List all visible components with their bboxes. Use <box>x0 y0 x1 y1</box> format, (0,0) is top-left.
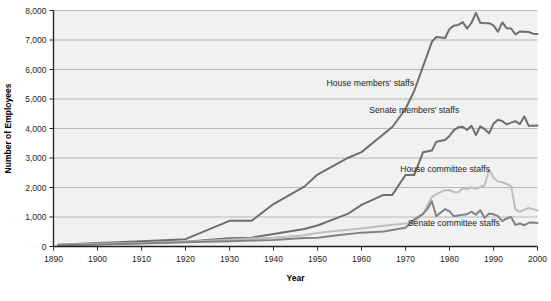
x-tick-label: 1950 <box>308 254 327 264</box>
y-tick-label: 5,000 <box>25 94 47 104</box>
x-tick-label: 1980 <box>440 254 459 264</box>
y-tick-label: 4,000 <box>25 124 47 134</box>
chart-container: 01,0002,0003,0004,0005,0006,0007,0008,00… <box>0 0 551 301</box>
y-tick-label: 0 <box>42 242 47 252</box>
x-tick-label: 1960 <box>352 254 371 264</box>
y-tick-label: 1,000 <box>25 212 47 222</box>
x-tick-label: 1990 <box>484 254 503 264</box>
x-tick-label: 1920 <box>176 254 195 264</box>
series-label: House members' staffs <box>327 78 414 88</box>
y-tick-label: 7,000 <box>25 35 47 45</box>
employees-line-chart: 01,0002,0003,0004,0005,0006,0007,0008,00… <box>0 0 551 301</box>
y-tick-label: 6,000 <box>25 65 47 75</box>
x-tick-label: 2000 <box>528 254 547 264</box>
x-axis-title: Year <box>287 273 306 283</box>
series-label: Senate committee staffs <box>408 218 500 228</box>
x-tick-label: 1970 <box>396 254 415 264</box>
x-tick-label: 1910 <box>132 254 151 264</box>
x-tick-label: 1900 <box>88 254 107 264</box>
series-label: Senate members' staffs <box>369 105 459 115</box>
y-tick-label: 8,000 <box>25 6 47 16</box>
x-tick-label: 1890 <box>44 254 63 264</box>
y-tick-label: 3,000 <box>25 153 47 163</box>
y-tick-label: 2,000 <box>25 183 47 193</box>
series-label: House committee staffs <box>400 164 490 174</box>
x-tick-label: 1940 <box>264 254 283 264</box>
y-axis-title: Number of Employees <box>3 83 13 173</box>
x-tick-label: 1930 <box>220 254 239 264</box>
